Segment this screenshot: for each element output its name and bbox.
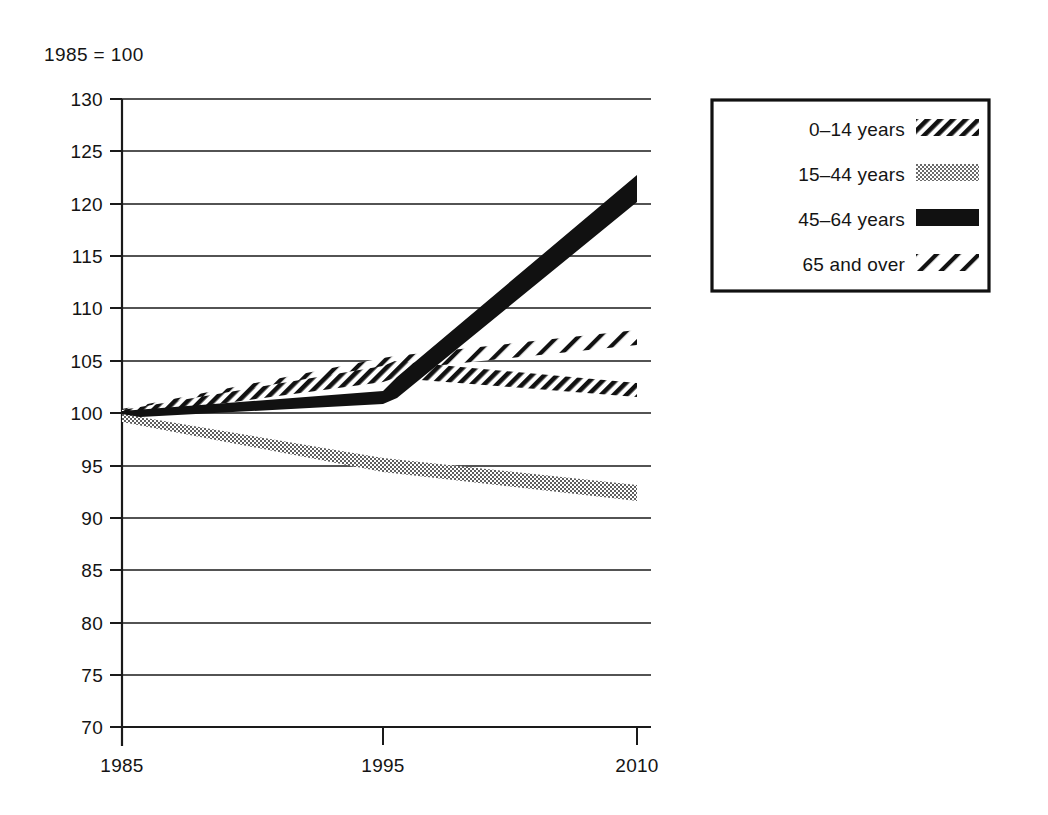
- xtick-label-2010: 2010: [615, 755, 658, 776]
- xtick-label-1995: 1995: [361, 755, 404, 776]
- series-band-15-44-years: [122, 414, 637, 501]
- legend-label-15-44-years: 15–44 years: [798, 164, 905, 185]
- chart-plot-area: 130 125 120 115 110 105 100 95 90 85 80 …: [0, 0, 1048, 815]
- legend-label-45-64-years: 45–64 years: [798, 209, 905, 230]
- ytick-label-95: 95: [81, 456, 103, 477]
- chart-figure: 1985 = 100: [0, 0, 1048, 815]
- xtick-label-1985: 1985: [100, 755, 143, 776]
- ytick-label-105: 105: [70, 351, 103, 372]
- swatch-45-64: [916, 209, 979, 226]
- y-axis-tick-labels: 130 125 120 115 110 105 100 95 90 85 80 …: [70, 89, 103, 738]
- x-tickmarks: [122, 727, 637, 745]
- y-tickmarks: [110, 99, 122, 727]
- ytick-label-85: 85: [81, 560, 103, 581]
- ytick-label-115: 115: [72, 246, 103, 267]
- ytick-label-80: 80: [81, 613, 103, 634]
- swatch-0-14: [916, 119, 979, 136]
- ytick-label-90: 90: [81, 508, 103, 529]
- ytick-label-100: 100: [70, 403, 103, 424]
- ytick-label-120: 120: [70, 194, 103, 215]
- series-band-15-44-years-fill: [122, 414, 637, 501]
- swatch-15-44: [916, 164, 979, 181]
- ytick-label-75: 75: [81, 665, 103, 686]
- ytick-label-130: 130: [70, 89, 103, 110]
- legend-label-0-14-years: 0–14 years: [809, 119, 905, 140]
- ytick-label-110: 110: [72, 298, 103, 319]
- x-axis-tick-labels: 1985 1995 2010: [100, 755, 658, 776]
- ytick-label-70: 70: [81, 717, 103, 738]
- swatch-65-over: [916, 254, 979, 271]
- legend-label-65-and-over: 65 and over: [802, 254, 905, 275]
- ytick-label-125: 125: [70, 141, 103, 162]
- legend: 0–14 years 15–44 years 45–64 years 65 an…: [712, 100, 989, 291]
